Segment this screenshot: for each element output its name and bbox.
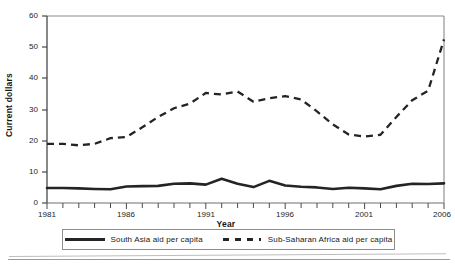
y-tick-label-0: 0 bbox=[16, 198, 38, 207]
legend-label-south-asia: South Asia aid per capita bbox=[111, 235, 203, 244]
y-axis-title: Current dollars bbox=[4, 60, 14, 150]
legend-swatch-solid-line-icon bbox=[65, 235, 105, 245]
x-tick-label-1981: 1981 bbox=[29, 210, 65, 219]
x-axis-title: Year bbox=[196, 219, 256, 229]
y-axis-ticks bbox=[42, 16, 47, 203]
page-rule bbox=[8, 259, 450, 260]
y-tick-label-20: 20 bbox=[16, 136, 38, 145]
legend-label-sub-saharan-africa: Sub-Saharan Africa aid per capita bbox=[268, 235, 393, 244]
y-tick-label-10: 10 bbox=[16, 167, 38, 176]
y-tick-label-50: 50 bbox=[16, 42, 38, 51]
series-line-sub-saharan-africa bbox=[47, 39, 444, 145]
legend-swatch-dashed-line-icon bbox=[222, 235, 262, 245]
x-axis-ticks bbox=[47, 203, 444, 209]
x-tick-label-1991: 1991 bbox=[188, 210, 224, 219]
x-tick-label-2001: 2001 bbox=[346, 210, 382, 219]
figure-container: Current dollars Year 0 10 20 30 40 50 60… bbox=[0, 0, 455, 266]
chart-legend: South Asia aid per capita Sub-Saharan Af… bbox=[62, 229, 395, 250]
x-tick-label-1986: 1986 bbox=[108, 210, 144, 219]
y-tick-label-30: 30 bbox=[16, 105, 38, 114]
legend-entry-sub-saharan-africa: Sub-Saharan Africa aid per capita bbox=[222, 235, 393, 245]
y-tick-label-40: 40 bbox=[16, 73, 38, 82]
x-tick-label-1996: 1996 bbox=[267, 210, 303, 219]
x-tick-label-2006: 2006 bbox=[424, 210, 455, 219]
y-tick-label-60: 60 bbox=[16, 11, 38, 20]
legend-entry-south-asia: South Asia aid per capita bbox=[65, 235, 203, 245]
plot-frame bbox=[47, 16, 444, 203]
series-line-south-asia bbox=[47, 179, 444, 190]
